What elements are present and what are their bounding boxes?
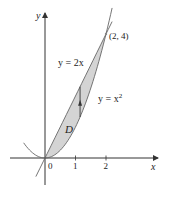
region-label: D (64, 123, 73, 135)
parabola-equation-label: y = x2 (98, 92, 123, 104)
region-diagram: 012 y x (2, 4) y = 2x y = x2 D (0, 0, 179, 198)
x-axis-label: x (150, 161, 156, 172)
intersection-label: (2, 4) (109, 31, 129, 41)
line-equation-label: y = 2x (58, 57, 84, 68)
x-tick-label: 2 (104, 161, 109, 171)
x-tick-label: 0 (48, 161, 53, 171)
parabola-equation-sup: 2 (119, 92, 123, 100)
parabola-equation-base: y = x (98, 93, 119, 104)
line-equation-text: y = 2x (58, 57, 84, 68)
y-axis-label: y (35, 10, 41, 21)
intersection-point (105, 33, 107, 35)
x-tick-label: 1 (73, 161, 78, 171)
